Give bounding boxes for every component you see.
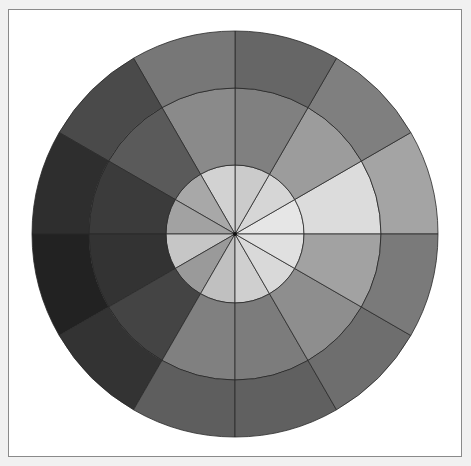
grayscale-polar-wheel (0, 0, 471, 466)
center-point (233, 232, 237, 236)
